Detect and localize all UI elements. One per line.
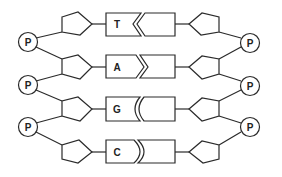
phosphate-right-1: P bbox=[241, 34, 260, 53]
svg-text:T: T bbox=[114, 19, 120, 30]
base-block-g-partner bbox=[139, 97, 175, 121]
svg-text:P: P bbox=[247, 81, 254, 92]
svg-text:P: P bbox=[247, 122, 254, 133]
sugar-pentagon-left-3 bbox=[62, 97, 92, 121]
sugar-pentagon-right-2 bbox=[189, 56, 219, 79]
phosphate-left-2: P bbox=[19, 76, 38, 95]
left-backbone bbox=[36, 32, 62, 145]
phosphate-right-2: P bbox=[241, 77, 260, 96]
svg-text:C: C bbox=[113, 147, 120, 158]
svg-text:P: P bbox=[25, 80, 32, 91]
svg-text:P: P bbox=[25, 122, 32, 133]
phosphate-left-1: P bbox=[19, 33, 38, 52]
sugar-pentagon-right-1 bbox=[189, 13, 219, 35]
base-block-c-partner bbox=[138, 140, 175, 163]
phosphate-left-3: P bbox=[19, 118, 38, 137]
base-block-a-partner bbox=[140, 55, 175, 78]
sugar-pentagon-left-4 bbox=[62, 140, 92, 163]
base-block-a bbox=[106, 55, 144, 78]
sugar-pentagon-left-1 bbox=[62, 12, 92, 35]
base-block-c bbox=[106, 140, 140, 163]
svg-text:P: P bbox=[247, 38, 254, 49]
dna-diagram: P P P P P P T A bbox=[0, 0, 282, 177]
sugar-pentagon-right-4 bbox=[189, 141, 219, 163]
sugar-pentagon-left-2 bbox=[62, 55, 92, 79]
sugar-pentagon-right-3 bbox=[189, 98, 219, 121]
base-block-t-partner bbox=[137, 13, 175, 36]
svg-text:G: G bbox=[113, 104, 121, 115]
right-backbone bbox=[219, 32, 241, 145]
svg-text:A: A bbox=[113, 62, 120, 73]
phosphate-right-3: P bbox=[241, 118, 260, 137]
svg-text:P: P bbox=[25, 37, 32, 48]
base-pair-row-2: A bbox=[62, 55, 219, 79]
base-pair-row-3: G bbox=[62, 97, 219, 121]
base-pair-row-1: T bbox=[62, 12, 219, 36]
base-block-g bbox=[106, 97, 140, 121]
base-pair-row-4: C bbox=[62, 140, 219, 163]
base-block-t bbox=[106, 13, 141, 36]
